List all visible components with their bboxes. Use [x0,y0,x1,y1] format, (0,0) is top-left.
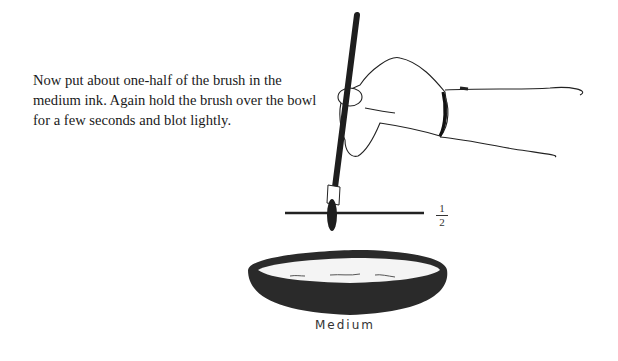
fraction-label: 1 2 [436,203,448,228]
fraction-numerator: 1 [436,203,448,216]
bowl-label: Medium [300,318,390,332]
arm-icon [440,87,583,157]
hand-icon [338,58,447,157]
brush-illustration [0,0,618,361]
fraction-denominator: 2 [436,216,448,228]
ink-bowl-icon [248,250,447,315]
